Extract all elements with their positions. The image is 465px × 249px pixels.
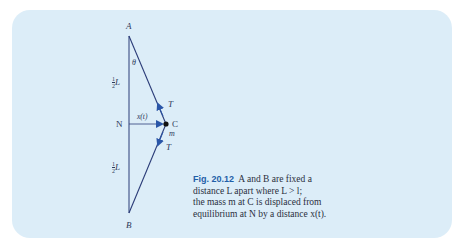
caption-line-3: the mass m at C is displaced from xyxy=(193,197,322,207)
label-half-L-lower: 12L xyxy=(112,161,120,174)
label-C: C xyxy=(172,120,178,129)
label-T-upper: T xyxy=(168,100,173,109)
label-T-lower: T xyxy=(166,143,171,152)
caption-line-1: A and B are fixed a xyxy=(238,174,312,184)
label-m: m xyxy=(169,130,175,138)
tension-arrow-lower xyxy=(158,132,163,145)
label-x-t: x(t) xyxy=(137,113,147,121)
tension-arrow-upper xyxy=(158,104,163,116)
label-B: B xyxy=(126,221,132,230)
label-N: N xyxy=(116,120,123,129)
figure-number: Fig. 20.12 xyxy=(193,174,234,184)
label-A: A xyxy=(126,22,132,31)
caption-line-4: equilibrium at N by a distance x(t). xyxy=(193,209,326,219)
figure-caption: Fig. 20.12 A and B are fixed a distance … xyxy=(193,174,353,220)
label-half-L-upper: 12L xyxy=(112,76,120,89)
caption-line-2: distance L apart where L > l; xyxy=(193,186,302,196)
label-theta: θ xyxy=(132,59,136,67)
mass-dot xyxy=(163,121,168,126)
